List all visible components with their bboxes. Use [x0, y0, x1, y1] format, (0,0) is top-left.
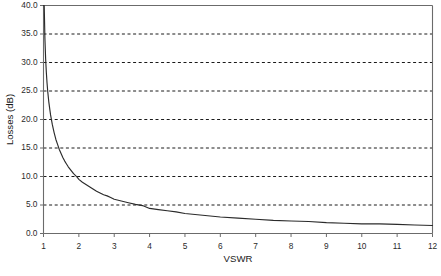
y-tick-label-30: 30.0	[21, 57, 38, 67]
y-tick-label-35: 35.0	[21, 28, 38, 38]
x-tick-label-8: 8	[289, 241, 294, 251]
y-tick-label-20: 20.0	[21, 114, 38, 124]
x-tick-label-1: 1	[41, 241, 46, 251]
x-tick-label-4: 4	[147, 241, 152, 251]
chart-container: 0.05.010.015.020.025.030.035.040.0 12345…	[0, 0, 441, 276]
losses-vs-vswr-chart: 0.05.010.015.020.025.030.035.040.0 12345…	[0, 0, 441, 276]
x-tick-label-11: 11	[393, 241, 402, 251]
x-tick-label-2: 2	[77, 241, 82, 251]
y-tick-label-40: 40.0	[21, 0, 38, 10]
y-tick-label-15: 15.0	[21, 142, 38, 152]
x-tick-label-12: 12	[428, 241, 438, 251]
x-tick-label-3: 3	[112, 241, 117, 251]
x-tick-label-9: 9	[324, 241, 329, 251]
x-tick-label-7: 7	[253, 241, 258, 251]
y-tick-label-10: 10.0	[21, 171, 38, 181]
x-axis-title: VSWR	[224, 253, 253, 264]
x-tick-label-10: 10	[357, 241, 367, 251]
y-axis-title: Losses (dB)	[4, 94, 15, 145]
y-tick-label-0: 0.0	[26, 228, 38, 238]
y-tick-label-5: 5.0	[26, 199, 38, 209]
y-tick-label-25: 25.0	[21, 85, 38, 95]
x-tick-label-6: 6	[218, 241, 223, 251]
x-tick-label-5: 5	[183, 241, 188, 251]
